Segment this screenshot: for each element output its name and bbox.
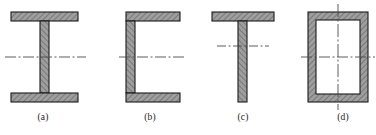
section-b-channel xyxy=(119,12,186,102)
caption-d: (d) xyxy=(323,112,363,122)
section-a-i-beam xyxy=(5,12,86,102)
section-d-box-tube xyxy=(301,4,375,110)
channel-bottom-flange xyxy=(126,93,180,102)
caption-c: (c) xyxy=(223,112,263,122)
caption-b: (b) xyxy=(130,112,170,122)
tee-web xyxy=(238,21,247,102)
channel-top-flange xyxy=(126,12,180,21)
tee-top-flange xyxy=(212,12,274,21)
section-c-tee xyxy=(212,12,274,102)
i-beam-bottom-flange xyxy=(11,93,78,102)
caption-a: (a) xyxy=(23,112,63,122)
i-beam-top-flange xyxy=(11,12,78,21)
structural-sections-figure: (a) (b) (c) (d) xyxy=(0,0,376,135)
